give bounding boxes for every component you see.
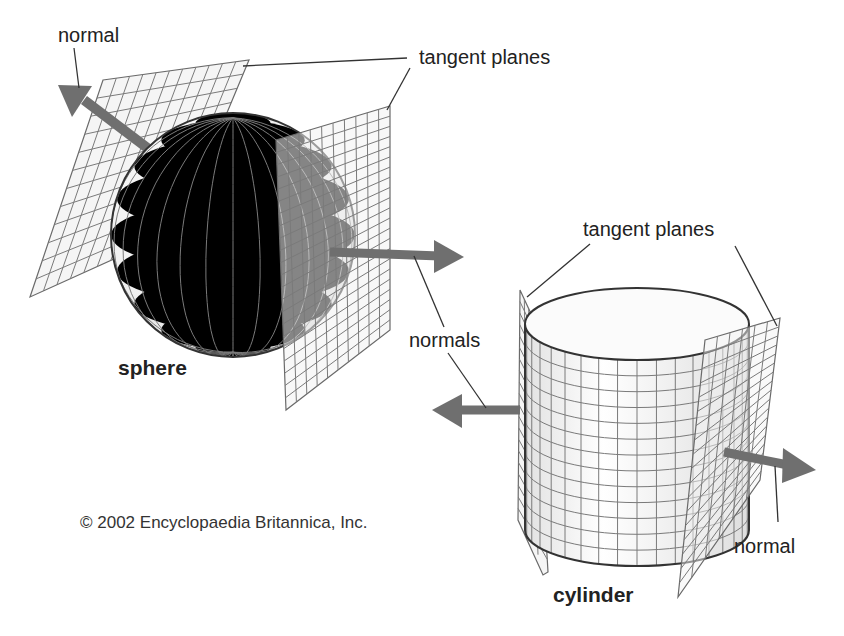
sphere-figure: normal tangent planes sphere [30, 24, 550, 410]
normal-arrow-left [432, 394, 520, 428]
label-normals: normals [409, 329, 480, 351]
copyright-notice: © 2002 Encyclopaedia Britannica, Inc. [80, 513, 368, 532]
leader-cylinder-normal [775, 466, 778, 522]
leader-sphere-tangent-2 [387, 68, 410, 110]
label-sphere: sphere [118, 356, 187, 379]
diagram-canvas: normal tangent planes sphere [0, 0, 844, 636]
label-sphere-normal: normal [58, 24, 119, 46]
leader-sphere-tangent-1 [243, 58, 407, 66]
label-cylinder: cylinder [553, 583, 634, 606]
cylinder-figure: tangent planes normals normal cylinder [409, 218, 816, 606]
leader-cylinder-tangent-left [527, 244, 590, 297]
label-cylinder-normal: normal [734, 535, 795, 557]
label-sphere-tangent-planes: tangent planes [419, 46, 550, 68]
label-cylinder-tangent-planes: tangent planes [583, 218, 714, 240]
leader-sphere-normal [74, 48, 79, 88]
